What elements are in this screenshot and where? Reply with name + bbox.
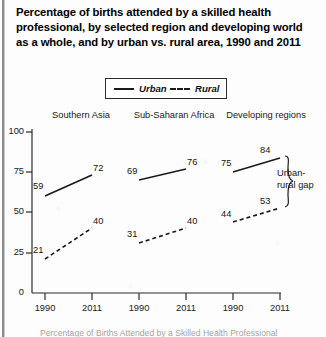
line-urban-developing-regions	[233, 158, 280, 172]
source-note-clipped: Percentage of Births Attended by a Skill…	[0, 328, 326, 337]
value-label-rural-developing-regions-1990: 44	[221, 209, 231, 219]
value-label-rural-sub-saharan-africa-1990: 31	[127, 229, 137, 239]
value-label-urban-developing-regions-1990: 75	[221, 158, 231, 168]
value-label-urban-sub-saharan-africa-2011: 76	[187, 157, 197, 167]
x-tick-label-2: 2011	[76, 303, 108, 313]
line-rural-southern-asia	[45, 228, 92, 259]
x-tick-label-3: 1990	[123, 303, 155, 313]
line-urban-sub-saharan-africa	[139, 169, 186, 180]
value-label-rural-southern-asia-1990: 21	[33, 245, 43, 255]
x-tick-label-1: 1990	[29, 303, 61, 313]
x-tick-label-6: 2011	[264, 303, 296, 313]
chart-figure: Percentage of births attended by a skill…	[0, 0, 326, 337]
x-tick-label-4: 2011	[170, 303, 202, 313]
value-label-rural-sub-saharan-africa-2011: 40	[187, 216, 197, 226]
line-rural-developing-regions	[233, 208, 280, 222]
urban-rural-gap-label: Urban-rural gap	[277, 168, 323, 191]
value-label-urban-southern-asia-2011: 72	[93, 163, 103, 173]
value-label-rural-developing-regions-2011: 53	[260, 196, 270, 206]
x-tick-label-5: 1990	[217, 303, 249, 313]
value-label-urban-developing-regions-2011: 84	[260, 145, 270, 155]
y-tick-label-25: 25	[2, 247, 24, 257]
line-rural-sub-saharan-africa	[139, 228, 186, 243]
line-urban-southern-asia	[45, 175, 92, 196]
value-label-rural-southern-asia-2011: 40	[93, 216, 103, 226]
value-label-urban-southern-asia-1990: 59	[33, 181, 43, 191]
source-note-text: Percentage of Births Attended by a Skill…	[40, 328, 277, 337]
y-tick-label-100: 100	[2, 126, 24, 136]
y-tick-label-0: 0	[2, 287, 24, 297]
y-tick-label-75: 75	[2, 166, 24, 176]
y-tick-label-50: 50	[2, 206, 24, 216]
value-label-urban-sub-saharan-africa-1990: 69	[127, 166, 137, 176]
